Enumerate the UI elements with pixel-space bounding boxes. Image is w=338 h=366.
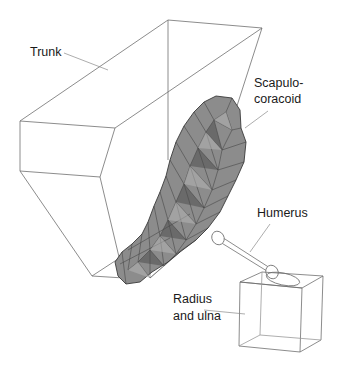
humerus-cylinder: [209, 229, 301, 288]
radius-ulna-box: [239, 272, 323, 352]
humerus-label: Humerus: [257, 206, 308, 221]
radius-ulna-label-line2: and ulna: [173, 309, 221, 324]
trunk-label: Trunk: [30, 45, 62, 60]
scapulocoracoid-mesh: [115, 96, 246, 284]
scapulocoracoid-label-line2: coracoid: [254, 92, 301, 107]
scapulocoracoid-label-line1: Scapulo-: [254, 76, 303, 91]
radius-ulna-label-line1: Radius: [173, 292, 212, 307]
